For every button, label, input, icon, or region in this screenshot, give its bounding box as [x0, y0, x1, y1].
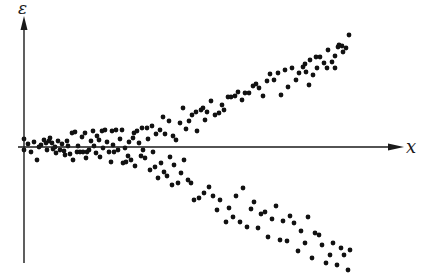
data-point [192, 198, 197, 203]
data-point [48, 136, 53, 141]
data-point [270, 217, 275, 222]
data-point [89, 139, 94, 144]
data-point [311, 73, 316, 78]
data-point [137, 141, 142, 146]
data-point [202, 191, 207, 196]
data-point [231, 215, 236, 220]
data-point [265, 79, 270, 84]
data-point [174, 138, 179, 143]
data-point [346, 268, 351, 273]
data-point [233, 94, 238, 99]
data-point [335, 263, 340, 268]
data-point [32, 140, 37, 145]
data-point [91, 129, 96, 134]
data-point [348, 248, 353, 253]
data-point [217, 111, 222, 116]
data-point [261, 94, 266, 99]
data-point [151, 150, 156, 155]
data-point [26, 142, 31, 147]
data-point [114, 128, 119, 133]
data-point [190, 113, 195, 118]
data-point [154, 132, 159, 137]
data-point [181, 106, 186, 111]
data-point [256, 226, 261, 231]
data-point [73, 130, 78, 135]
data-point [133, 164, 138, 169]
data-point [135, 129, 140, 134]
data-point [227, 206, 232, 211]
data-point [105, 140, 110, 145]
data-point [197, 196, 202, 201]
data-point [331, 241, 336, 246]
data-point [83, 131, 88, 136]
data-point [172, 163, 177, 168]
data-point [341, 50, 346, 55]
data-point [58, 148, 63, 153]
data-point [322, 61, 327, 66]
data-point [266, 235, 271, 240]
data-point [285, 239, 290, 244]
data-point [324, 261, 329, 266]
data-point [182, 158, 187, 163]
data-point [71, 158, 76, 163]
data-point [131, 136, 136, 141]
data-point [145, 126, 150, 131]
data-point [310, 256, 315, 261]
data-point [162, 170, 167, 175]
data-point [211, 194, 216, 199]
data-point [296, 249, 301, 254]
data-point [54, 151, 59, 156]
data-point [103, 128, 108, 133]
data-point [201, 106, 206, 111]
data-point [98, 155, 103, 160]
data-point [252, 200, 257, 205]
data-point [29, 150, 34, 155]
x-axis-label: x [406, 136, 416, 157]
data-point [278, 238, 283, 243]
data-point [141, 148, 146, 153]
data-point [153, 165, 158, 170]
data-point [288, 214, 293, 219]
data-point [84, 156, 89, 161]
data-point [303, 241, 308, 246]
data-point [178, 121, 183, 126]
data-point [234, 194, 239, 199]
data-point [203, 118, 208, 123]
data-point [283, 68, 288, 73]
data-point [156, 176, 161, 181]
data-point [87, 148, 92, 153]
data-point [238, 220, 243, 225]
data-point [339, 246, 344, 251]
data-point [307, 83, 312, 88]
data-point [187, 119, 192, 124]
data-point [56, 139, 61, 144]
data-point [65, 139, 70, 144]
data-point [50, 141, 55, 146]
data-point [304, 70, 309, 75]
data-point [274, 204, 279, 209]
y-axis-label: ε [18, 0, 27, 18]
data-point [205, 110, 210, 115]
data-point [247, 91, 252, 96]
data-point [148, 168, 153, 173]
data-point [179, 171, 184, 176]
data-point [222, 108, 227, 113]
scatter-plot [0, 0, 422, 275]
x-axis-arrow-icon [388, 144, 404, 151]
data-point [333, 54, 338, 59]
data-point [333, 66, 338, 71]
data-point [184, 127, 189, 132]
data-point [195, 129, 200, 134]
data-point [126, 154, 131, 159]
data-point [189, 181, 194, 186]
data-point [272, 78, 277, 83]
data-point [143, 156, 148, 161]
data-point [292, 221, 297, 226]
data-point [120, 128, 125, 133]
data-point [215, 208, 220, 213]
data-point [159, 161, 164, 166]
data-point [308, 58, 313, 63]
data-point [328, 253, 333, 258]
data-point [165, 174, 170, 179]
data-point [254, 82, 259, 87]
